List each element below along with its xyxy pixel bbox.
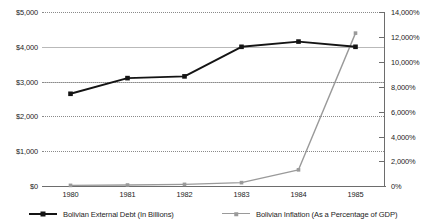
data-point (182, 74, 187, 79)
data-point (353, 45, 358, 50)
data-point (183, 183, 187, 187)
data-point (297, 168, 301, 172)
data-point (296, 39, 301, 44)
legend-line-marker-icon (29, 209, 57, 219)
legend-label-debt: Bolivian External Debt (In Billions) (63, 210, 174, 219)
x-axis-tick-1985: 1985 (347, 190, 363, 199)
data-point (125, 76, 130, 81)
legend-item-debt[interactable]: Bolivian External Debt (In Billions) (29, 207, 174, 221)
debt-markers (68, 39, 358, 96)
data-point (126, 183, 130, 187)
x-axis-tick-1980: 1980 (62, 190, 78, 199)
debt-line (71, 42, 356, 94)
data-point (239, 45, 244, 50)
x-axis-tick-1982: 1982 (176, 190, 192, 199)
inflation-markers (69, 31, 358, 187)
inflation-line (71, 33, 356, 185)
chart-legend: Bolivian External Debt (In Billions) Bol… (0, 205, 442, 223)
x-axis-tick-1981: 1981 (119, 190, 135, 199)
x-axis-tick-1984: 1984 (290, 190, 306, 199)
data-point (68, 91, 73, 96)
data-point (354, 31, 358, 35)
legend-label-inflation: Bolivian Inflation (As a Percentage of G… (256, 210, 397, 219)
data-point (240, 181, 244, 185)
legend-line-marker-icon (222, 209, 250, 219)
data-point (69, 184, 73, 188)
x-axis-labels: 1980 1981 1982 1983 1984 1985 (42, 190, 384, 203)
legend-item-inflation[interactable]: Bolivian Inflation (As a Percentage of G… (222, 207, 397, 221)
chart-container: $5,000 $4,000 $3,000 $2,000 $1,000 $0 14… (0, 0, 442, 223)
x-axis-tick-1983: 1983 (233, 190, 249, 199)
